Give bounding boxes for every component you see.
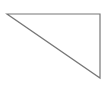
- right-triangle-shape: [7, 14, 100, 78]
- diagram-canvas: [0, 0, 106, 96]
- triangle-drawing: [0, 0, 106, 96]
